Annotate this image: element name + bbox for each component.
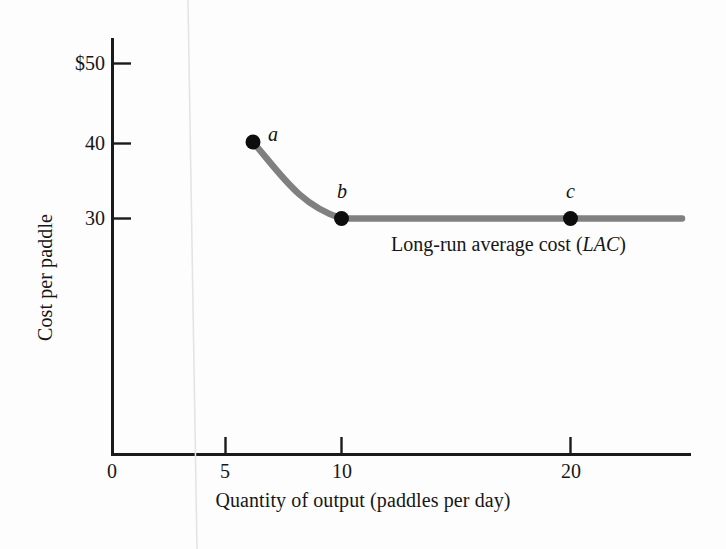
x-tick-label-10: 10	[321, 460, 363, 483]
x-tick-label-20: 20	[550, 460, 592, 483]
lac-curve-label: Long-run average cost (LAC)	[391, 233, 626, 256]
data-point-c-marker	[563, 211, 578, 226]
y-tick-label-50: $50	[24, 52, 105, 75]
lac-label-tail: )	[619, 233, 626, 255]
data-point-a-marker	[246, 135, 261, 150]
y-tick-label-40: 40	[24, 132, 105, 155]
x-tick-label-0: 0	[92, 460, 132, 483]
long-run-average-cost-figure: $50 40 30 0 5 10 20 a b c Long-run avera…	[0, 0, 726, 549]
lac-label-abbr: LAC	[583, 233, 620, 255]
x-axis-title: Quantity of output (paddles per day)	[0, 489, 726, 512]
x-tick-label-5: 5	[205, 460, 245, 483]
lac-curve	[253, 142, 682, 219]
data-point-label-b: b	[337, 180, 347, 203]
data-point-b-marker	[334, 211, 349, 226]
data-point-label-c: c	[566, 180, 575, 203]
lac-label-lead: Long-run average cost (	[391, 233, 583, 255]
y-axis-title: Cost per paddle	[34, 173, 57, 383]
data-point-label-a: a	[268, 123, 278, 146]
